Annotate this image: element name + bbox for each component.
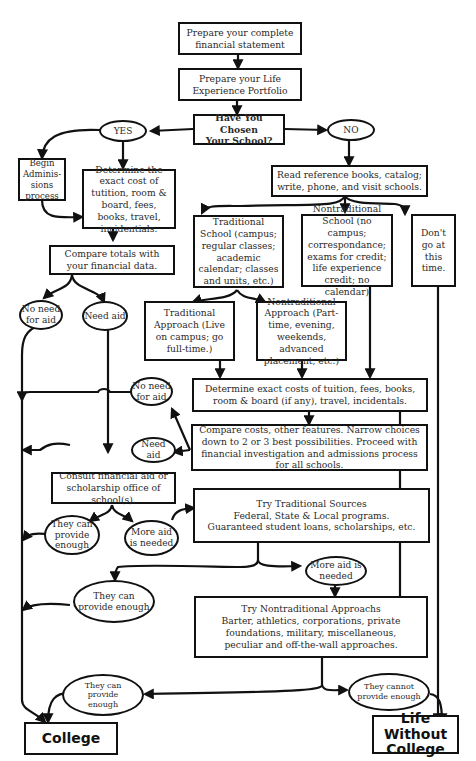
can-provide-oval-1: They can provide enough — [44, 515, 100, 555]
no-need-for-aid-text-2: No need for aid — [132, 381, 171, 403]
life-without-college-terminal-box: Life Without College — [372, 715, 459, 754]
dont-go-box: Don't go at this time. — [411, 214, 456, 287]
more-aid-needed-text-2: More aid is needed — [307, 560, 365, 582]
nontraditional-approaches-title: Try Nontraditional Approachs — [241, 603, 381, 615]
college-terminal-box: College — [24, 722, 118, 755]
compare-totals-box: Compare totals with your financial data. — [49, 245, 175, 275]
compare-totals-text: Compare totals with your financial data. — [54, 248, 170, 272]
cannot-provide-text: They cannot provide enough — [350, 682, 428, 701]
life-without-line-1: Life Without — [377, 711, 454, 742]
begin-admissions-text: Begin Adminis-sions process — [23, 158, 61, 202]
prepare-financial-statement-text: Prepare your complete financial statemen… — [183, 27, 297, 51]
prepare-portfolio-box: Prepare your Life Experience Portfolio — [178, 68, 302, 101]
need-aid-oval-1: Need aid — [82, 301, 128, 331]
nontraditional-approaches-body: Barter, athletics, corporations, private… — [199, 615, 423, 650]
no-oval: NO — [327, 119, 375, 141]
have-you-chosen-school-box: Have You Chosen Your School? — [193, 114, 285, 145]
begin-admissions-box: Begin Adminis-sions process — [18, 158, 66, 201]
consult-office-box: Consult financial aid or scholarship off… — [51, 472, 176, 504]
read-reference-text: Read reference books, catalog; write, ph… — [276, 169, 423, 193]
traditional-sources-line-3: Guaranteed student loans, scholarships, … — [208, 521, 416, 533]
nontraditional-approach-box: Nontraditional Approach (Part-time, even… — [256, 301, 347, 361]
compare-costs-box: Compare costs, other features. Narrow ch… — [191, 424, 428, 471]
read-reference-box: Read reference books, catalog; write, ph… — [271, 165, 428, 197]
nontraditional-approach-text: Nontraditional Approach (Part-time, even… — [261, 296, 342, 367]
traditional-school-box: Traditional School (campus; regular clas… — [193, 215, 284, 288]
can-provide-text-1: They can provide enough — [46, 519, 98, 551]
dont-go-text: Don't go at this time. — [416, 227, 451, 274]
can-provide-oval-3: They can provide enough — [62, 674, 144, 716]
more-aid-needed-oval-2: More aid is needed — [305, 556, 367, 586]
nontraditional-approaches-box: Try Nontraditional Approachs Barter, ath… — [194, 596, 428, 658]
no-need-for-aid-text-1: No need for aid — [21, 304, 61, 326]
can-provide-oval-2: They can provide enough — [73, 580, 155, 623]
determine-exact-costs-box-2: Determine exact costs of tuition, fees, … — [192, 378, 428, 412]
determine-exact-cost-box: Determine the exact cost of tutition, ro… — [82, 169, 176, 229]
college-text: College — [42, 731, 101, 746]
determine-exact-cost-text: Determine the exact cost of tutition, ro… — [87, 164, 171, 235]
more-aid-needed-text-1: More aid is needed — [126, 527, 177, 549]
life-without-line-2: College — [386, 742, 445, 757]
prepare-portfolio-text: Prepare your Life Experience Portfolio — [183, 73, 297, 97]
need-aid-oval-2: Need aid — [131, 437, 176, 463]
can-provide-text-2: They can provide enough — [75, 591, 153, 613]
yes-text: YES — [114, 126, 133, 137]
nontraditional-school-box: Nontraditional School (no campus; corres… — [301, 214, 393, 287]
have-you-chosen-line-2: Your School? — [206, 135, 273, 147]
cannot-provide-oval: They cannot provide enough — [348, 673, 430, 711]
yes-oval: YES — [99, 120, 147, 142]
determine-exact-costs-text-2: Determine exact costs of tuition, fees, … — [197, 383, 423, 407]
no-need-for-aid-oval-2: No need for aid — [130, 377, 173, 406]
traditional-sources-box: Try Traditional Sources Federal, State &… — [193, 488, 430, 543]
no-need-for-aid-oval-1: No need for aid — [19, 300, 63, 330]
have-you-chosen-line-1: Have You Chosen — [198, 112, 280, 136]
traditional-school-text: Traditional School (campus; regular clas… — [198, 216, 279, 287]
no-text: NO — [343, 125, 358, 136]
nontraditional-school-text: Nontraditional School (no campus; corres… — [306, 203, 388, 297]
prepare-financial-statement-box: Prepare your complete financial statemen… — [178, 22, 302, 55]
more-aid-needed-oval-1: More aid is needed — [124, 520, 179, 556]
need-aid-text-1: Need aid — [84, 311, 125, 322]
traditional-approach-text: Traditional Approach (Live on campus; go… — [149, 307, 230, 354]
need-aid-text-2: Need aid — [133, 439, 174, 461]
can-provide-text-3: They can provide enough — [64, 681, 142, 710]
consult-office-text: Consult financial aid or scholarship off… — [56, 470, 171, 505]
compare-costs-text: Compare costs, other features. Narrow ch… — [196, 424, 423, 471]
traditional-approach-box: Traditional Approach (Live on campus; go… — [144, 301, 235, 361]
traditional-sources-title: Try Traditional Sources — [256, 498, 366, 510]
traditional-sources-line-2: Federal, State & Local programs. — [234, 510, 390, 522]
